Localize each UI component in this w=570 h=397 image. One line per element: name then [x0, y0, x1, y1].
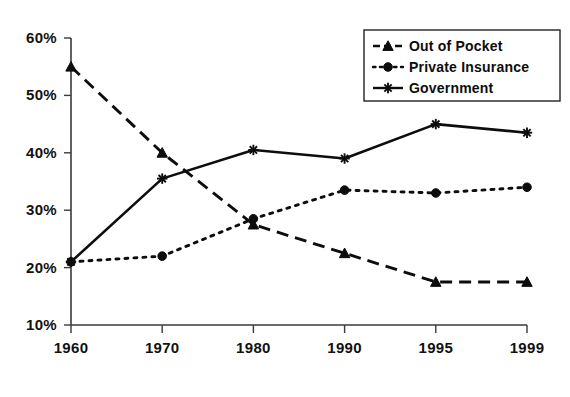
data-point — [249, 215, 258, 224]
x-tick-label: 1995 — [419, 339, 454, 356]
y-tick-label: 40% — [26, 144, 57, 161]
data-point — [248, 145, 258, 155]
data-point — [432, 189, 441, 198]
legend-label: Private Insurance — [409, 59, 529, 75]
data-point — [66, 257, 76, 267]
y-tick-label: 20% — [26, 259, 57, 276]
legend-marker-icon — [383, 83, 393, 93]
x-tick-label: 1980 — [236, 339, 271, 356]
x-tick-label: 1960 — [54, 339, 89, 356]
legend-label: Government — [409, 80, 494, 96]
data-point — [523, 183, 532, 192]
y-tick-label: 60% — [26, 29, 57, 46]
data-point — [340, 186, 349, 195]
x-tick-label: 1990 — [327, 339, 362, 356]
x-tick-label: 1999 — [510, 339, 545, 356]
legend-label: Out of Pocket — [409, 38, 503, 54]
x-tick-label: 1970 — [145, 339, 180, 356]
chart-container: 10%20%30%40%50%60% 196019701980199019951… — [0, 0, 570, 397]
y-tick-label: 10% — [26, 316, 57, 333]
legend-marker-icon — [384, 63, 393, 72]
data-point — [158, 252, 167, 261]
line-chart: 10%20%30%40%50%60% 196019701980199019951… — [0, 0, 570, 397]
y-tick-label: 50% — [26, 86, 57, 103]
chart-legend: Out of PocketPrivate InsuranceGovernment — [364, 30, 560, 101]
y-tick-label: 30% — [26, 201, 57, 218]
data-point — [522, 128, 532, 138]
